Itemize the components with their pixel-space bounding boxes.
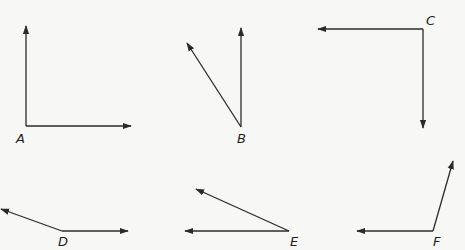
vertex-label: D [58, 234, 68, 249]
angle-d: D [1, 209, 128, 249]
vertex-label: B [237, 131, 246, 146]
angle-a: A [15, 26, 131, 146]
ray-arrow [187, 43, 241, 127]
vertex-label: C [426, 13, 436, 28]
vertex-label: F [433, 234, 441, 249]
angle-c: C [318, 13, 436, 128]
angle-f: F [357, 161, 453, 249]
vertex-label: E [290, 234, 299, 249]
ray-arrow [196, 189, 289, 231]
ray-arrow [433, 161, 453, 231]
vertex-label: A [15, 131, 25, 146]
ray-arrow [1, 209, 62, 231]
angle-b: B [187, 28, 246, 146]
angles-diagram: ABCDEF [0, 0, 465, 250]
angle-e: E [185, 189, 299, 249]
